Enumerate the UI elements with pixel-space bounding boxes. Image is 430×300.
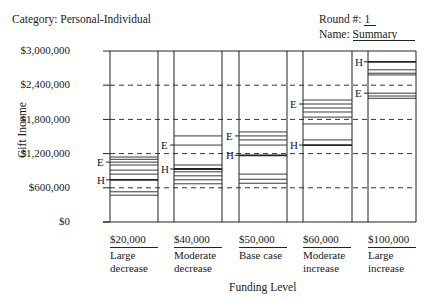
x-category-desc2: decrease bbox=[174, 262, 222, 275]
marker-e-label: E bbox=[355, 87, 362, 99]
marker-h-label: H bbox=[355, 56, 363, 68]
x-category-amount: $50,000 bbox=[239, 233, 287, 248]
x-category-desc1: Large bbox=[110, 249, 158, 262]
x-category-amount: $40,000 bbox=[174, 233, 222, 248]
x-category-desc1: Large bbox=[368, 249, 416, 262]
x-category-5: $100,000 Large increase bbox=[368, 233, 416, 275]
x-axis-label: Funding Level bbox=[229, 281, 296, 293]
marker-e-label: E bbox=[226, 130, 233, 142]
x-category-amount: $60,000 bbox=[303, 233, 351, 248]
x-category-desc1: Moderate bbox=[303, 249, 351, 262]
marker-e-label: E bbox=[161, 139, 168, 151]
x-category-amount: $20,000 bbox=[110, 233, 158, 248]
x-category-3: $50,000 Base case bbox=[239, 233, 287, 262]
x-category-desc1: Moderate bbox=[174, 249, 222, 262]
x-category-desc2: increase bbox=[303, 262, 351, 275]
x-category-1: $20,000 Large decrease bbox=[110, 233, 158, 275]
marker-e-label: E bbox=[290, 98, 297, 110]
marker-h-label: H bbox=[161, 163, 169, 175]
x-category-amount: $100,000 bbox=[368, 233, 416, 248]
marker-h-label: H bbox=[226, 149, 234, 161]
marker-e-label: E bbox=[97, 156, 104, 168]
x-category-2: $40,000 Moderate decrease bbox=[174, 233, 222, 275]
marker-h-label: H bbox=[97, 174, 105, 186]
x-category-desc2: increase bbox=[368, 262, 416, 275]
x-category-desc1: Base case bbox=[239, 249, 287, 262]
marker-h-label: H bbox=[290, 139, 298, 151]
x-category-4: $60,000 Moderate increase bbox=[303, 233, 351, 275]
x-category-desc2: decrease bbox=[110, 262, 158, 275]
